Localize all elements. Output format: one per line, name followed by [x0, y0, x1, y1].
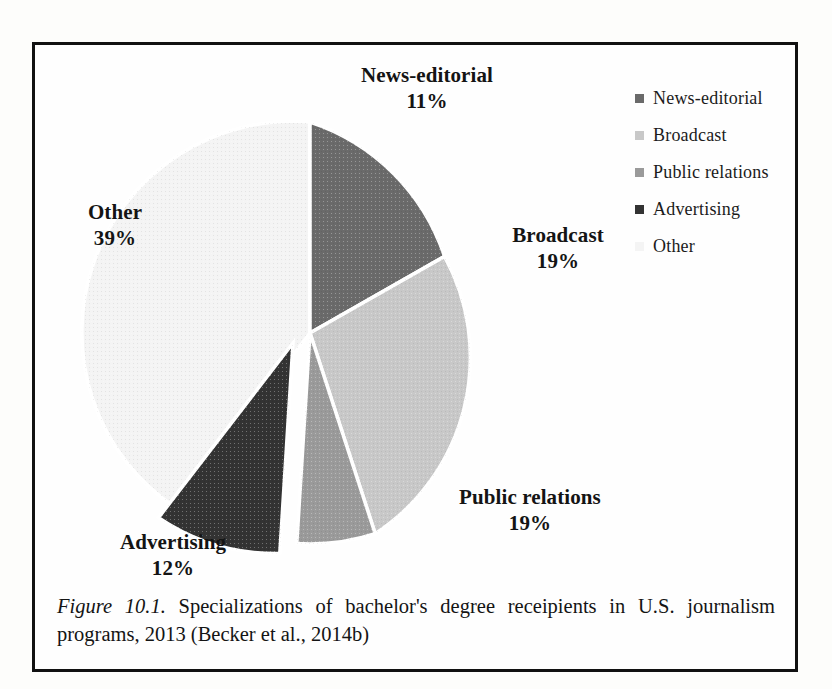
- legend-item-news-editorial[interactable]: News-editorial: [635, 83, 800, 114]
- legend-swatch-advertising-icon: [635, 205, 644, 214]
- slice-label-public-relations-value: 19%: [415, 511, 645, 537]
- slice-label-broadcast-value: 19%: [463, 249, 653, 275]
- legend-item-advertising[interactable]: Advertising: [635, 194, 800, 225]
- slice-label-news-editorial: News-editorial 11%: [317, 63, 537, 114]
- slice-label-public-relations-name: Public relations: [459, 485, 601, 509]
- figure-frame: News-editorial 11% Broadcast 19% Public …: [32, 42, 798, 672]
- legend-label-other: Other: [653, 236, 695, 257]
- slice-label-advertising: Advertising 12%: [63, 530, 283, 581]
- legend-swatch-news-editorial-icon: [635, 94, 644, 103]
- legend-label-public-relations: Public relations: [653, 162, 769, 183]
- slice-label-advertising-name: Advertising: [120, 530, 226, 554]
- figure-caption: Figure 10.1. Specializations of bachelor…: [57, 593, 775, 648]
- chart-legend: News-editorial Broadcast Public relation…: [635, 83, 800, 268]
- legend-item-public-relations[interactable]: Public relations: [635, 157, 800, 188]
- legend-swatch-other-icon: [635, 242, 644, 251]
- legend-label-broadcast: Broadcast: [653, 125, 727, 146]
- legend-swatch-public-relations-icon: [635, 168, 644, 177]
- slice-label-public-relations: Public relations 19%: [415, 485, 645, 536]
- legend-swatch-broadcast-icon: [635, 131, 644, 140]
- slice-label-broadcast: Broadcast 19%: [463, 223, 653, 274]
- slice-label-advertising-value: 12%: [63, 556, 283, 582]
- slice-label-news-editorial-value: 11%: [317, 89, 537, 115]
- legend-label-advertising: Advertising: [653, 199, 740, 220]
- legend-label-news-editorial: News-editorial: [653, 88, 763, 109]
- slice-label-other-name: Other: [88, 200, 142, 224]
- figure-caption-number: Figure 10.1.: [57, 595, 166, 617]
- slice-label-other-value: 39%: [25, 226, 205, 252]
- slice-label-broadcast-name: Broadcast: [512, 223, 604, 247]
- legend-item-broadcast[interactable]: Broadcast: [635, 120, 800, 151]
- slice-label-news-editorial-name: News-editorial: [361, 63, 493, 87]
- figure-page: News-editorial 11% Broadcast 19% Public …: [0, 0, 832, 689]
- slice-label-other: Other 39%: [25, 200, 205, 251]
- legend-item-other[interactable]: Other: [635, 231, 800, 262]
- pie-chart: News-editorial 11% Broadcast 19% Public …: [35, 45, 795, 590]
